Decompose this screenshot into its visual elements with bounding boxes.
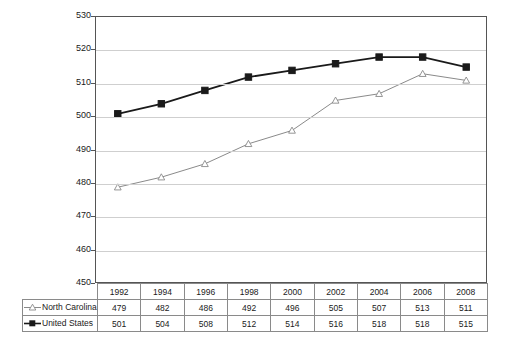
gridline (96, 117, 486, 118)
table-cell-value: 479 (97, 300, 140, 316)
legend-entry-north-carolina: North Carolina (23, 300, 98, 316)
data-point-marker (376, 54, 382, 60)
legend-open-triangle-icon (24, 303, 41, 312)
y-axis-tick-label: 460 (57, 245, 91, 254)
gridline (96, 217, 486, 218)
table-cell-value: 505 (314, 300, 357, 316)
gridline (96, 184, 486, 185)
table-header-year: 2000 (271, 284, 314, 300)
table-cell-value: 486 (184, 300, 227, 316)
table-header-row: 199219941996199820002002200420062008 (23, 284, 488, 300)
legend-label: United States (42, 318, 93, 328)
y-axis-tick-label: 500 (57, 111, 91, 120)
table-header-year: 2004 (357, 284, 400, 300)
gridline (96, 251, 486, 252)
data-point-marker (202, 87, 208, 93)
table-header-year: 1994 (141, 284, 184, 300)
table-cell-value: 518 (401, 316, 444, 332)
table-row: North Carolina47948248649249650550751351… (23, 300, 488, 316)
data-point-marker (158, 101, 164, 107)
y-axis-tick-label: 480 (57, 178, 91, 187)
table-header-year: 1992 (97, 284, 140, 300)
gridline (96, 50, 486, 51)
y-axis-tick-label: 520 (57, 44, 91, 53)
y-axis-tick-label: 510 (57, 78, 91, 87)
data-point-marker (289, 67, 295, 73)
series-line-united-states (118, 57, 466, 114)
table-cell-value: 496 (271, 300, 314, 316)
data-point-marker (463, 64, 469, 70)
table-cell-value: 482 (141, 300, 184, 316)
legend-filled-square-icon (24, 319, 41, 328)
table-header-year: 2006 (401, 284, 444, 300)
table-header-year: 1998 (227, 284, 270, 300)
plot-area (95, 16, 487, 283)
table-header-year: 2002 (314, 284, 357, 300)
data-point-marker (376, 90, 383, 96)
gridline (96, 84, 486, 85)
table-row: United States501504508512514516518518515 (23, 316, 488, 332)
data-table: 199219941996199820002002200420062008 Nor… (22, 283, 488, 332)
table-cell-value: 512 (227, 316, 270, 332)
table-header-year: 1996 (184, 284, 227, 300)
line-chart-figure: 530520510500490480470460450 199219941996… (0, 0, 512, 347)
table-cell-value: 492 (227, 300, 270, 316)
table-cell-value: 515 (444, 316, 487, 332)
data-point-marker (245, 74, 251, 80)
table-cell-value: 507 (357, 300, 400, 316)
y-axis-tick-label: 470 (57, 211, 91, 220)
y-axis-tick-label: 490 (57, 145, 91, 154)
y-axis-tick-label: 530 (57, 11, 91, 20)
data-point-marker (289, 127, 296, 133)
table-cell-value: 511 (444, 300, 487, 316)
data-point-marker (332, 61, 338, 67)
data-point-marker (419, 70, 426, 76)
data-point-marker (201, 160, 208, 166)
table-cell-value: 518 (357, 316, 400, 332)
gridline (96, 151, 486, 152)
table-cell-value: 514 (271, 316, 314, 332)
table-header-year: 2008 (444, 284, 487, 300)
table-cell-value: 513 (401, 300, 444, 316)
legend-label: North Carolina (42, 302, 97, 312)
data-point-marker (115, 111, 121, 117)
table-cell-value: 504 (141, 316, 184, 332)
table-body: North Carolina47948248649249650550751351… (23, 300, 488, 332)
table-cell-value: 516 (314, 316, 357, 332)
data-point-marker (419, 54, 425, 60)
table-cell-value: 501 (97, 316, 140, 332)
table-corner (23, 284, 98, 300)
table-cell-value: 508 (184, 316, 227, 332)
legend-entry-united-states: United States (23, 316, 98, 332)
